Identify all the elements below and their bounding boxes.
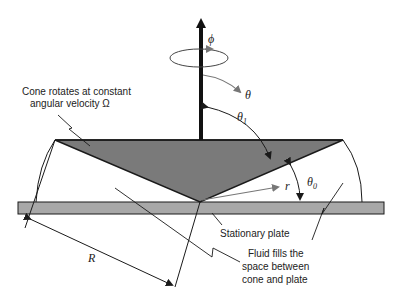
theta0-arc [290,164,300,199]
r-symbol: r [285,179,290,193]
plate-leader-line [212,213,222,225]
left-edge-line [25,140,55,228]
cone-label-line2: angular velocity Ω [30,98,110,109]
R-symbol: R [87,251,96,265]
theta0-symbol: θ0 [307,175,317,191]
cone-plate-diagram: Cone rotates at constant angular velocit… [0,0,400,303]
fluid-label-line3: cone and plate [242,274,308,285]
phi-symbol: ϕ [208,32,214,46]
right-edge-arc [343,140,362,202]
plate-label: Stationary plate [220,228,290,239]
r-extension-line [175,202,200,287]
R-dimension-arrow [30,219,172,285]
theta1-symbol: θ1 [237,110,247,126]
theta-symbol: θ [245,88,251,102]
fluid-leader-left [115,188,240,262]
cone-label-line1: Cone rotates at constant [22,86,131,97]
theta-arrow [203,75,240,92]
fluid-label-line2: space between [242,261,309,272]
fluid-label-line1: Fluid fills the [248,248,304,259]
axis-arrowhead-icon [196,18,206,28]
